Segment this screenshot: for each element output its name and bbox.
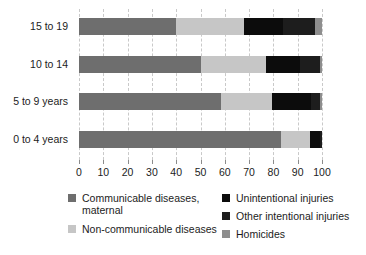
bar-segment — [201, 56, 267, 73]
legend-swatch-communicable — [68, 194, 76, 202]
x-tick-100 — [322, 160, 323, 164]
x-tick-0 — [79, 160, 80, 164]
bar-segment — [283, 18, 315, 35]
bar-segment — [79, 18, 176, 35]
x-tick-60 — [225, 160, 226, 164]
legend-label: Homicides — [236, 228, 285, 240]
x-tick-50 — [201, 160, 202, 164]
plot-area: 15 to 1910 to 145 to 9 years0 to 4 years… — [0, 0, 366, 190]
legend-item[interactable]: Homicides — [222, 228, 362, 241]
x-tick-label-40: 40 — [170, 166, 182, 178]
x-tick-label-80: 80 — [268, 166, 280, 178]
x-tick-label-30: 30 — [146, 166, 158, 178]
bar-segment — [311, 93, 320, 110]
bar-segment — [310, 131, 320, 148]
chart-legend: Communicable diseases, maternalNon-commu… — [0, 192, 366, 255]
legend-column-right: Unintentional injuriesOther intentional … — [222, 192, 362, 246]
bar-segment — [244, 18, 283, 35]
legend-column-left: Communicable diseases, maternalNon-commu… — [68, 192, 218, 241]
x-tick-40 — [176, 160, 177, 164]
x-axis-ticks — [79, 160, 322, 165]
legend-swatch-non-communicable — [68, 225, 76, 233]
x-tick-label-100: 100 — [313, 166, 331, 178]
legend-label: Unintentional injuries — [236, 192, 333, 204]
bar-segment — [281, 131, 310, 148]
y-axis-category-labels: 15 to 1910 to 145 to 9 years0 to 4 years — [0, 18, 72, 160]
legend-item[interactable]: Unintentional injuries — [222, 192, 362, 205]
x-tick-label-70: 70 — [243, 166, 255, 178]
bar-segment — [320, 56, 322, 73]
x-tick-label-50: 50 — [195, 166, 207, 178]
x-tick-80 — [273, 160, 274, 164]
bar-segment — [320, 131, 322, 148]
legend-label: Other intentional injuries — [236, 210, 349, 222]
y-axis-label-1: 10 to 14 — [0, 59, 68, 70]
legend-swatch-unintentional — [222, 194, 230, 202]
legend-item[interactable]: Non-communicable diseases — [68, 223, 218, 236]
legend-item[interactable]: Communicable diseases, maternal — [68, 192, 218, 216]
x-axis-tick-labels: 0102030405060708090100 — [79, 166, 322, 180]
bar-segment — [315, 18, 322, 35]
bars-container — [79, 18, 322, 160]
legend-item[interactable]: Other intentional injuries — [222, 210, 362, 223]
x-tick-70 — [249, 160, 250, 164]
legend-label: Non-communicable diseases — [82, 223, 217, 235]
bar-segment — [266, 56, 300, 73]
legend-swatch-other-intentional — [222, 212, 230, 220]
legend-swatch-homicides — [222, 230, 230, 238]
x-tick-label-90: 90 — [292, 166, 304, 178]
bar-row-1 — [79, 56, 322, 73]
bar-row-0 — [79, 18, 322, 35]
bar-segment — [272, 93, 311, 110]
x-tick-20 — [128, 160, 129, 164]
x-tick-90 — [298, 160, 299, 164]
bar-segment — [221, 93, 272, 110]
y-axis-label-0: 15 to 19 — [0, 21, 68, 32]
bar-segment — [79, 131, 281, 148]
gridline-100 — [322, 9, 323, 160]
stacked-bar-chart: 15 to 1910 to 145 to 9 years0 to 4 years… — [0, 0, 366, 255]
y-axis-label-3: 0 to 4 years — [0, 134, 68, 145]
x-tick-label-10: 10 — [97, 166, 109, 178]
x-tick-30 — [152, 160, 153, 164]
bar-segment — [320, 93, 322, 110]
bar-segment — [79, 56, 201, 73]
x-tick-label-0: 0 — [76, 166, 82, 178]
y-axis-label-2: 5 to 9 years — [0, 96, 68, 107]
x-tick-label-20: 20 — [122, 166, 134, 178]
x-tick-label-60: 60 — [219, 166, 231, 178]
bar-segment — [300, 56, 319, 73]
bar-row-2 — [79, 93, 322, 110]
bar-segment — [79, 93, 221, 110]
x-tick-10 — [103, 160, 104, 164]
legend-label: Communicable diseases, maternal — [82, 192, 218, 216]
bar-segment — [176, 18, 244, 35]
bar-row-3 — [79, 131, 322, 148]
